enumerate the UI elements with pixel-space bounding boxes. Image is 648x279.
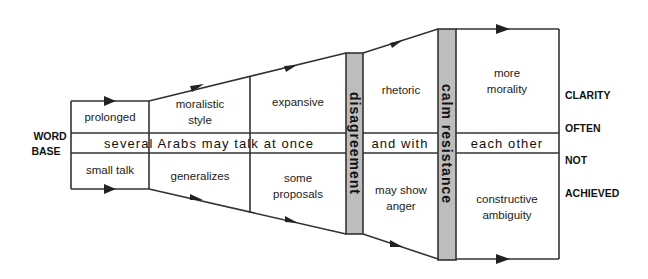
top-outline	[71, 29, 559, 101]
stage5-bottom-1: constructive	[476, 193, 537, 205]
arrow-icon	[190, 194, 203, 200]
stage2-bottom: generalizes	[171, 170, 230, 182]
arrow-icon	[390, 240, 403, 247]
stage3-bottom-2: proposals	[273, 188, 323, 200]
stage3-top: expansive	[272, 96, 324, 108]
stage4-bottom-2: anger	[386, 200, 416, 212]
disagreement-label: disagreement	[347, 92, 363, 195]
arrow-icon	[390, 40, 403, 48]
arrow-icon	[496, 24, 510, 34]
arrow-icon	[104, 184, 116, 194]
arrow-icon	[104, 96, 116, 106]
clarity-label: CLARITY	[565, 89, 611, 101]
stage4-top: rhetoric	[382, 84, 421, 96]
arrow-icon	[496, 254, 510, 264]
often-label: OFTEN	[565, 122, 601, 134]
calm-resistance-label: calm resistance	[439, 84, 455, 204]
stage2-top-1: moralistic	[176, 98, 225, 110]
word-base-label-1: WORD	[33, 130, 67, 142]
stage4-bottom-1: may show	[375, 184, 427, 196]
stage2-top-2: style	[188, 114, 212, 126]
middle-band-segment-3: each other	[471, 136, 543, 151]
stage5-top-1: more	[494, 67, 520, 79]
stage1-top: prolonged	[84, 111, 135, 123]
stage3-bottom-1: some	[284, 172, 312, 184]
not-label: NOT	[565, 154, 588, 166]
funnel-diagram: disagreement calm resistance WORD BASE C…	[0, 0, 648, 279]
stage5-top-2: morality	[487, 83, 528, 95]
middle-band-segment-2: and with	[371, 136, 428, 151]
arrow-icon	[285, 216, 298, 223]
middle-band-segment-1: several Arabs may talk at once	[104, 136, 314, 151]
stage1-bottom: small talk	[86, 164, 134, 176]
stage5-bottom-2: ambiguity	[482, 209, 531, 221]
word-base-label-2: BASE	[31, 145, 60, 157]
arrow-icon	[284, 65, 297, 72]
achieved-label: ACHIEVED	[565, 187, 620, 199]
